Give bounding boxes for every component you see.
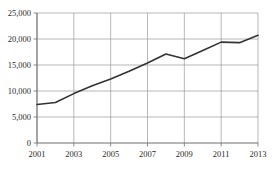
x-axis-tick-label: 2013 xyxy=(250,149,267,159)
x-axis-tick-label: 2005 xyxy=(102,149,119,159)
y-axis-tick-label: 15,000 xyxy=(8,60,31,70)
y-axis-tick-label: 20,000 xyxy=(8,34,31,44)
line-chart: 05,00010,00015,00020,00025,000 200120032… xyxy=(0,0,272,174)
y-axis-tick-label: 25,000 xyxy=(8,8,31,18)
x-axis-tick-label: 2001 xyxy=(29,149,46,159)
y-axis-tick-label: 5,000 xyxy=(12,112,31,122)
x-axis-tick-label: 2007 xyxy=(139,149,156,159)
x-axis-tick-labels: 2001200320052007200920112013 xyxy=(29,149,267,159)
chart-canvas: 05,00010,00015,00020,00025,000 200120032… xyxy=(0,0,272,174)
x-axis-tick-marks xyxy=(37,143,258,147)
y-axis-tick-labels: 05,00010,00015,00020,00025,000 xyxy=(8,8,31,148)
y-axis-tick-label: 0 xyxy=(27,138,31,148)
x-axis-tick-label: 2011 xyxy=(213,149,230,159)
y-axis-tick-marks xyxy=(34,13,38,143)
vertical-gridlines xyxy=(37,13,258,143)
y-axis-tick-label: 10,000 xyxy=(8,86,31,96)
x-axis-tick-label: 2003 xyxy=(65,149,82,159)
x-axis-tick-label: 2009 xyxy=(176,149,193,159)
